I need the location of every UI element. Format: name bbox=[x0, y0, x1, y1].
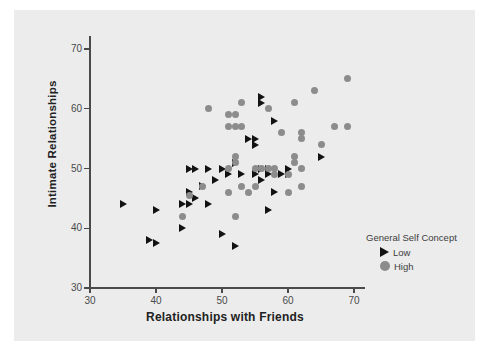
data-point-high bbox=[186, 192, 193, 199]
legend-title: General Self Concept bbox=[366, 232, 486, 243]
data-point-high bbox=[232, 213, 239, 220]
data-point-low bbox=[258, 99, 265, 107]
data-point-low bbox=[265, 206, 272, 214]
data-point-low bbox=[120, 200, 127, 208]
data-point-low bbox=[219, 230, 226, 238]
data-point-high bbox=[252, 183, 259, 190]
y-tick-label: 60 bbox=[56, 103, 82, 114]
x-axis-line bbox=[89, 287, 365, 289]
data-point-high bbox=[298, 135, 305, 142]
y-tick-mark bbox=[84, 108, 89, 109]
scatter-chart: 3040506070 3040506070 Intimate Relations… bbox=[0, 0, 489, 351]
x-tick-label: 70 bbox=[339, 295, 369, 306]
x-tick-mark bbox=[89, 288, 90, 293]
x-tick-label: 60 bbox=[273, 295, 303, 306]
data-point-high bbox=[298, 165, 305, 172]
legend-label-low: Low bbox=[393, 247, 410, 258]
data-point-high bbox=[232, 111, 239, 118]
triangle-right-icon bbox=[380, 247, 389, 257]
data-point-high bbox=[232, 159, 239, 166]
data-point-high bbox=[245, 189, 252, 196]
y-tick-mark bbox=[84, 228, 89, 229]
data-point-high bbox=[318, 141, 325, 148]
x-tick-mark bbox=[155, 288, 156, 293]
y-tick-mark bbox=[84, 168, 89, 169]
data-point-low bbox=[153, 239, 160, 247]
data-point-high bbox=[232, 153, 239, 160]
y-tick-mark bbox=[84, 287, 89, 288]
x-tick-label: 50 bbox=[207, 295, 237, 306]
data-point-high bbox=[265, 105, 272, 112]
data-point-low bbox=[153, 206, 160, 214]
data-point-high bbox=[225, 189, 232, 196]
data-point-high bbox=[344, 123, 351, 130]
y-tick-label: 50 bbox=[56, 163, 82, 174]
x-tick-mark bbox=[221, 288, 222, 293]
legend-item-high: High bbox=[380, 260, 486, 272]
data-point-low bbox=[205, 165, 212, 173]
legend-item-low: Low bbox=[380, 246, 486, 258]
x-tick-label: 40 bbox=[141, 295, 171, 306]
y-tick-label: 70 bbox=[56, 43, 82, 54]
data-point-low bbox=[238, 170, 245, 178]
x-tick-mark bbox=[287, 288, 288, 293]
data-point-low bbox=[192, 165, 199, 173]
data-point-high bbox=[179, 213, 186, 220]
data-point-low bbox=[232, 242, 239, 250]
legend-label-high: High bbox=[394, 261, 414, 272]
data-area bbox=[90, 36, 360, 288]
y-tick-label: 30 bbox=[56, 282, 82, 293]
data-point-high bbox=[199, 183, 206, 190]
data-point-high bbox=[285, 171, 292, 178]
y-axis-line bbox=[89, 36, 91, 288]
data-point-low bbox=[318, 153, 325, 161]
x-tick-mark bbox=[353, 288, 354, 293]
y-tick-label: 40 bbox=[56, 222, 82, 233]
data-point-high bbox=[298, 183, 305, 190]
data-point-low bbox=[252, 141, 259, 149]
x-axis-label: Relationships with Friends bbox=[90, 310, 360, 324]
circle-icon bbox=[380, 261, 390, 271]
plot-panel: 3040506070 3040506070 Intimate Relations… bbox=[14, 10, 475, 341]
y-tick-mark bbox=[84, 48, 89, 49]
data-point-high bbox=[285, 189, 292, 196]
data-point-low bbox=[212, 176, 219, 184]
legend: General Self Concept Low High bbox=[366, 232, 486, 272]
data-point-high bbox=[278, 129, 285, 136]
data-point-low bbox=[271, 188, 278, 196]
data-point-low bbox=[192, 194, 199, 202]
data-point-low bbox=[205, 200, 212, 208]
data-point-high bbox=[331, 123, 338, 130]
data-point-low bbox=[179, 224, 186, 232]
data-point-low bbox=[271, 117, 278, 125]
y-axis-label: Intimate Relationships bbox=[46, 44, 58, 244]
x-tick-label: 30 bbox=[75, 295, 105, 306]
